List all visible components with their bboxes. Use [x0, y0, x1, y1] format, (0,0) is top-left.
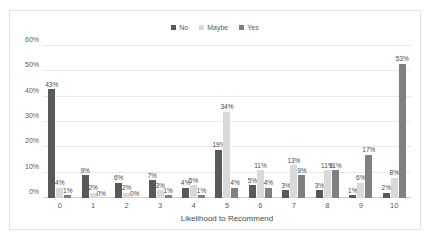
bar-no[interactable]: 4% — [182, 46, 189, 198]
bar-maybe[interactable]: 11% — [324, 46, 331, 198]
bar-no[interactable]: 7% — [149, 46, 156, 198]
bar-rect — [399, 64, 406, 198]
bar-maybe[interactable]: 5% — [190, 46, 197, 198]
bar-yes[interactable]: 4% — [231, 46, 238, 198]
bar-rect — [265, 188, 272, 198]
x-axis-tick-label: 3 — [143, 201, 176, 210]
bar-value-label: 5% — [189, 178, 198, 185]
legend-swatch-icon — [171, 25, 176, 30]
bar-value-label: 1% — [163, 188, 172, 195]
bar-yes[interactable]: 1% — [165, 46, 172, 198]
bar-group: 19%34%4% — [210, 46, 243, 198]
bar-no[interactable]: 6% — [115, 46, 122, 198]
bar-rect — [64, 195, 71, 198]
bar-value-label: 4% — [55, 180, 64, 187]
bar-no[interactable]: 5% — [249, 46, 256, 198]
bar-no[interactable]: 19% — [215, 46, 222, 198]
bar-group: 4%5%1% — [177, 46, 210, 198]
bar-rect — [349, 195, 356, 198]
bar-yes[interactable]: 1% — [198, 46, 205, 198]
x-axis-tick-label: 10 — [378, 201, 411, 210]
bar-value-label: 8% — [390, 170, 399, 177]
bar-value-label: 3% — [281, 183, 290, 190]
bar-maybe[interactable]: 13% — [290, 46, 297, 198]
x-axis-tick-label: 8 — [311, 201, 344, 210]
legend-item-no[interactable]: No — [171, 24, 188, 31]
y-axis-tick-label: 40% — [25, 86, 39, 93]
bar-value-label: 17% — [362, 147, 375, 154]
bar-value-label: 0% — [130, 191, 139, 198]
chart-legend: NoMaybeYes — [10, 24, 420, 31]
bar-value-label: 53% — [396, 56, 409, 63]
bar-value-label: 4% — [230, 180, 239, 187]
x-axis-tick-label: 4 — [177, 201, 210, 210]
bar-group: 5%11%4% — [244, 46, 277, 198]
bar-value-label: 1% — [197, 188, 206, 195]
bar-maybe[interactable]: 11% — [257, 46, 264, 198]
bar-rect — [365, 155, 372, 198]
bar-maybe[interactable]: 2% — [123, 46, 130, 198]
x-axis-tick-label: 1 — [76, 201, 109, 210]
bar-no[interactable]: 43% — [48, 46, 55, 198]
bar-value-label: 1% — [63, 188, 72, 195]
y-axis-tick-label: 0% — [29, 188, 39, 195]
bar-maybe[interactable]: 8% — [391, 46, 398, 198]
bar-value-label: 4% — [264, 180, 273, 187]
bar-rect — [231, 188, 238, 198]
bar-yes[interactable]: 9% — [298, 46, 305, 198]
bar-value-label: 9% — [297, 168, 306, 175]
bar-yes[interactable]: 17% — [365, 46, 372, 198]
bar-yes[interactable]: 4% — [265, 46, 272, 198]
bar-rect — [383, 193, 390, 198]
legend-item-yes[interactable]: Yes — [239, 24, 258, 31]
bar-value-label: 2% — [382, 185, 391, 192]
y-axis-tick-label: 20% — [25, 137, 39, 144]
bar-rect — [215, 150, 222, 198]
bar-group: 1%6%17% — [344, 46, 377, 198]
bar-value-label: 9% — [80, 168, 89, 175]
bar-maybe[interactable]: 2% — [90, 46, 97, 198]
plot-area: 0%10%20%30%40%50%60% 43%4%1%9%2%0%6%2%0%… — [43, 46, 411, 198]
bar-rect — [357, 183, 364, 198]
x-axis-tick-label: 7 — [277, 201, 310, 210]
bar-value-label: 5% — [248, 178, 257, 185]
y-axis-tick-label: 60% — [25, 36, 39, 43]
y-axis-tick-label: 50% — [25, 61, 39, 68]
bar-maybe[interactable]: 34% — [223, 46, 230, 198]
bar-group: 3%11%11% — [311, 46, 344, 198]
y-axis-tick-label: 30% — [25, 112, 39, 119]
x-axis-ticks: 012345678910 — [43, 201, 411, 210]
bar-maybe[interactable]: 3% — [157, 46, 164, 198]
bar-value-label: 3% — [315, 183, 324, 190]
x-axis-tick-label: 0 — [43, 201, 76, 210]
bar-group: 43%4%1% — [43, 46, 76, 198]
legend-label: No — [179, 24, 188, 31]
legend-label: Maybe — [207, 24, 228, 31]
bar-yes[interactable]: 0% — [131, 46, 138, 198]
bar-yes[interactable]: 11% — [332, 46, 339, 198]
bar-rect — [316, 190, 323, 198]
bar-rect — [332, 170, 339, 198]
bar-yes[interactable]: 0% — [98, 46, 105, 198]
legend-swatch-icon — [239, 25, 244, 30]
bar-rect — [198, 195, 205, 198]
bar-maybe[interactable]: 4% — [56, 46, 63, 198]
legend-item-maybe[interactable]: Maybe — [199, 24, 228, 31]
x-axis-tick-label: 6 — [244, 201, 277, 210]
bar-rect — [182, 188, 189, 198]
bar-no[interactable]: 3% — [316, 46, 323, 198]
legend-swatch-icon — [199, 25, 204, 30]
bar-yes[interactable]: 53% — [399, 46, 406, 198]
bar-value-label: 11% — [329, 163, 342, 170]
x-axis-tick-label: 5 — [210, 201, 243, 210]
bar-yes[interactable]: 1% — [64, 46, 71, 198]
bar-value-label: 6% — [356, 175, 365, 182]
bar-no[interactable]: 9% — [82, 46, 89, 198]
bar-value-label: 0% — [96, 191, 105, 198]
bar-maybe[interactable]: 6% — [357, 46, 364, 198]
x-axis-tick-label: 9 — [344, 201, 377, 210]
bar-rect — [249, 185, 256, 198]
bar-no[interactable]: 3% — [282, 46, 289, 198]
bar-group: 6%2%0% — [110, 46, 143, 198]
bar-rect — [391, 178, 398, 198]
